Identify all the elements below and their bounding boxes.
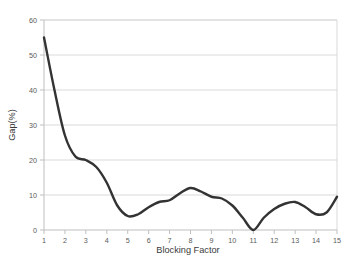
line-chart: 123456789101112131415 0102030405060 Bloc… (0, 0, 360, 266)
x-tick-label: 13 (291, 236, 299, 245)
x-tick-label: 5 (126, 236, 130, 245)
y-tick-label: 40 (29, 86, 37, 95)
series-line-gap (44, 38, 337, 231)
y-axis-title: Gap(%) (7, 109, 17, 141)
x-tick-label: 10 (228, 236, 236, 245)
x-axis-tick-labels: 123456789101112131415 (42, 236, 341, 245)
x-tick-label: 8 (189, 236, 193, 245)
y-tick-label: 50 (29, 51, 37, 60)
y-tick-label: 60 (29, 16, 37, 25)
x-tick-label: 2 (63, 236, 67, 245)
x-tick-label: 7 (168, 236, 172, 245)
y-axis-ticks (40, 20, 44, 230)
x-tick-label: 12 (270, 236, 278, 245)
x-tick-label: 3 (84, 236, 88, 245)
x-axis-ticks (44, 230, 337, 234)
x-tick-label: 11 (250, 236, 257, 245)
x-tick-label: 1 (42, 236, 46, 245)
data-series (44, 38, 337, 231)
gridlines (44, 20, 337, 195)
x-tick-label: 9 (209, 236, 213, 245)
x-tick-label: 14 (312, 236, 320, 245)
y-axis-tick-labels: 0102030405060 (29, 16, 37, 235)
y-tick-label: 30 (29, 121, 37, 130)
x-tick-label: 15 (333, 236, 341, 245)
y-tick-label: 0 (33, 226, 37, 235)
x-tick-label: 4 (105, 236, 109, 245)
y-tick-label: 20 (29, 156, 37, 165)
x-axis-title: Blocking Factor (156, 245, 219, 255)
y-tick-label: 10 (29, 191, 37, 200)
chart-container: 123456789101112131415 0102030405060 Bloc… (0, 0, 360, 266)
x-tick-label: 6 (147, 236, 151, 245)
